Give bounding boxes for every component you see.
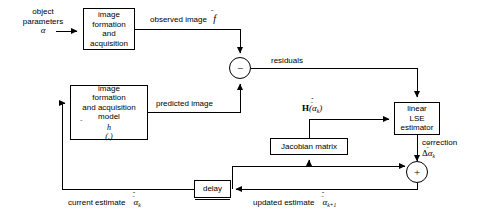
wire-residuals xyxy=(251,68,417,97)
label-text: predicted image xyxy=(156,99,213,108)
block-image-formation-acquisition[interactable]: image formation and acquisition xyxy=(83,8,135,50)
alpha-hat-vector-symbol: α ̄ ̂ xyxy=(312,104,317,114)
label-text: correction xyxy=(422,138,457,147)
block-line: LSE xyxy=(401,114,434,124)
alpha-hat-vector-symbol: α ̄ ̂ xyxy=(134,198,139,208)
wire-jacobian-to-lse xyxy=(309,119,389,138)
block-line: estimator xyxy=(401,123,434,133)
wire-observed-image xyxy=(134,29,240,53)
label-text: updated estimate xyxy=(253,198,314,207)
block-image-formation-acquisition-model[interactable]: image formation and acquisition model h … xyxy=(70,85,148,140)
label-correction: correction xyxy=(422,138,457,148)
label-correction-delta-alpha: Δ α ̄ ̂ k xyxy=(422,149,435,162)
alpha-vector-symbol: α ̄ xyxy=(41,26,46,36)
block-line: acquisition xyxy=(90,39,128,49)
h-arg: (.) xyxy=(82,132,135,142)
block-line: formation xyxy=(90,20,128,30)
summing-junction-subtract[interactable]: − xyxy=(229,57,251,79)
label-jacobian-signal: H( α ̄ ̂ k) xyxy=(302,104,322,117)
h-vector-symbol: h ̄ xyxy=(82,123,135,133)
block-line: delay xyxy=(203,184,222,194)
label-text: residuals xyxy=(271,56,303,65)
summing-junction-add[interactable]: + xyxy=(406,161,428,183)
block-line: image xyxy=(82,84,135,94)
subscript-k-plus-1: k+1 xyxy=(327,202,336,208)
label-text: observed image xyxy=(150,15,207,24)
label-observed-image: observed image f ̄ xyxy=(150,14,216,25)
block-linear-lse-estimator[interactable]: linear LSE estimator xyxy=(394,102,440,135)
subscript-k: k xyxy=(138,202,140,208)
block-diagram-canvas: image formation and acquisition image fo… xyxy=(0,0,480,217)
block-line: Jacobian matrix xyxy=(281,142,337,152)
matrix-H-symbol: H xyxy=(302,103,309,113)
paren-close: ) xyxy=(319,103,322,113)
block-line: linear xyxy=(401,104,434,114)
block-line: formation xyxy=(82,93,135,103)
block-line-symbol: h ̄ (.) xyxy=(82,123,135,142)
subscript-k: k xyxy=(433,153,435,159)
block-line: and xyxy=(90,29,128,39)
label-current-estimate: current estimate α ̄ ̂ k xyxy=(68,198,141,211)
block-line: and acquisition xyxy=(82,103,135,113)
block-line: image xyxy=(90,10,128,20)
alpha-hat-vector-symbol: α ̄ ̂ xyxy=(428,149,433,159)
label-text: current estimate xyxy=(68,198,125,207)
block-jacobian-matrix[interactable]: Jacobian matrix xyxy=(270,138,348,155)
alpha-hat-vector-symbol: α ̄ ̂ xyxy=(323,198,328,208)
label-object-parameters: object parameters α ̄ xyxy=(12,7,74,36)
plus-icon: + xyxy=(414,167,420,178)
minus-icon: − xyxy=(237,63,243,74)
label-updated-estimate: updated estimate α ̄ ̂ k+1 xyxy=(253,198,336,211)
f-vector-symbol: f ̄ xyxy=(213,14,216,24)
block-line: model xyxy=(82,112,135,122)
wire-current-estimate-to-add xyxy=(232,166,405,167)
label-predicted-image: predicted image xyxy=(156,99,213,109)
wire-updated-estimate xyxy=(236,183,417,189)
label-line: object xyxy=(32,7,53,16)
label-residuals: residuals xyxy=(271,56,303,66)
block-delay[interactable]: delay xyxy=(194,180,231,198)
